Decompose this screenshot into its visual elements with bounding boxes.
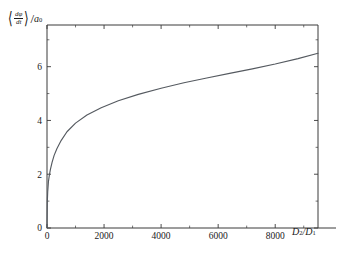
svg-text:4: 4 [37, 116, 42, 126]
y-axis-label-denominator: dt [14, 18, 23, 26]
angle-bracket-close-icon: ⟩ [24, 10, 29, 27]
svg-text:8000: 8000 [266, 231, 285, 241]
y-axis-label-fraction: dφdt [14, 11, 23, 27]
chart-figure: 020004000600080000246 ⟨dφdt⟩/a0 D2/D1 [0, 0, 342, 263]
svg-text:6: 6 [37, 62, 42, 72]
y-axis-label: ⟨dφdt⟩/a0 [7, 10, 42, 27]
svg-text:4000: 4000 [152, 231, 171, 241]
x-axis-label: D2/D1 [292, 226, 316, 237]
svg-text:0: 0 [45, 231, 50, 241]
y-axis-label-numerator: dφ [14, 11, 23, 18]
y-axis-label-scale-subscript: 0 [39, 16, 42, 23]
y-axis-label-scale: a0 [34, 13, 42, 24]
svg-text:2000: 2000 [95, 231, 114, 241]
svg-text:2: 2 [37, 170, 42, 180]
x-axis-label-denominator-symbol: D [305, 226, 312, 237]
chart-background [0, 0, 342, 263]
angle-bracket-open-icon: ⟨ [8, 10, 13, 27]
chart-plot-area: 020004000600080000246 [0, 0, 342, 263]
svg-text:0: 0 [37, 223, 42, 233]
svg-text:6000: 6000 [209, 231, 228, 241]
x-axis-label-denominator-subscript: 1 [313, 229, 316, 236]
